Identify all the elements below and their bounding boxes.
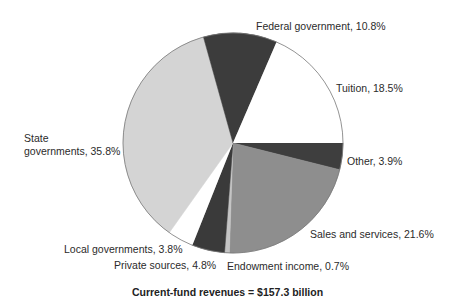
label-state-governments-line2: governments, 35.8% [24, 145, 120, 157]
label-other: Other, 3.9% [347, 155, 402, 167]
pie-slices [123, 33, 343, 253]
label-tuition: Tuition, 18.5% [336, 82, 403, 94]
label-state-governments-line1: State [24, 132, 49, 144]
label-federal-government: Federal government, 10.8% [256, 20, 386, 32]
label-local-governments: Local governments, 3.8% [64, 243, 182, 255]
label-sales-and-services: Sales and services, 21.6% [310, 228, 434, 240]
label-private-sources: Private sources, 4.8% [114, 259, 216, 271]
chart-caption: Current-fund revenues = $157.3 billion [0, 286, 455, 298]
label-endowment-income: Endowment income, 0.7% [227, 260, 349, 272]
